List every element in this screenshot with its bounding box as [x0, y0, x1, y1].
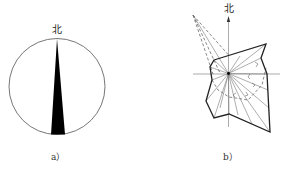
wind-rose-figure-b: [193, 15, 280, 132]
caption-a: a）: [51, 153, 65, 162]
figure-canvas: [0, 0, 284, 179]
dashed-rose-lines: [193, 15, 266, 100]
caption-b: b）: [223, 153, 238, 162]
north-needle-icon: [51, 39, 65, 135]
radial-rays: [206, 44, 270, 132]
center-point: [227, 72, 230, 75]
compass-figure-a: [9, 39, 105, 135]
north-label-a: 北: [52, 25, 62, 35]
north-arrow-icon: [227, 16, 230, 22]
north-label-b: 北: [224, 4, 234, 14]
